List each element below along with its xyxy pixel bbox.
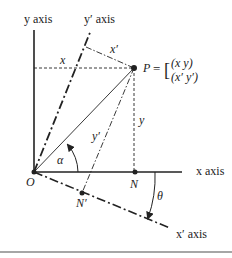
y-axis-label: y axis: [24, 12, 53, 26]
y-coord-label: y: [138, 113, 145, 127]
rotation-diagram: y axis x axis y′ axis x′ axis α θ O N N′…: [0, 0, 232, 258]
x-coord-label: x: [59, 53, 66, 67]
point-n-prime: [80, 191, 85, 196]
theta-arc: [148, 172, 155, 218]
theta-label: θ: [157, 189, 163, 203]
x-axis-label: x axis: [196, 164, 225, 178]
x-prime-coord-label: x′: [109, 42, 118, 56]
origin-label: O: [26, 175, 35, 189]
alpha-label: α: [57, 153, 64, 167]
p-equals-bracket: =: [153, 61, 160, 76]
origin-point: [32, 170, 37, 175]
x-prime-axis-line: [34, 172, 170, 228]
point-p: [131, 65, 137, 71]
op-line: [34, 68, 134, 172]
n-prime-label: N′: [75, 196, 87, 210]
point-n: [133, 170, 138, 175]
y-prime-axis-label: y′ axis: [84, 12, 115, 26]
y-prime-axis-line: [34, 30, 91, 172]
alpha-arc: [68, 145, 78, 172]
p-label: P: [142, 61, 151, 75]
p-row2: (x′ y′): [171, 70, 198, 84]
y-prime-coord-label: y′: [91, 129, 100, 143]
y-prime-projection: [82, 68, 134, 193]
p-row1: (x y): [171, 56, 193, 70]
x-prime-axis-label: x′ axis: [176, 227, 207, 241]
p-bracket: [: [164, 60, 170, 80]
n-label: N: [129, 177, 139, 191]
